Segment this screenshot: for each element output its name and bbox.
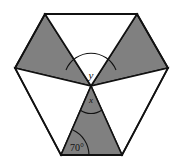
geometry-figure-container: y x 70°: [0, 0, 181, 163]
geometry-figure-svg: y x 70°: [0, 0, 181, 163]
angle-label-70-degrees: 70°: [70, 142, 84, 153]
angle-label-x: x: [88, 95, 93, 105]
angle-label-y: y: [88, 69, 94, 81]
